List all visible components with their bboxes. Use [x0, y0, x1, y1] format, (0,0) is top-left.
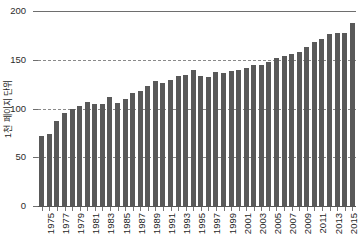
bar-2008: [289, 54, 294, 206]
bar-2002: [244, 68, 249, 206]
bar-2010: [304, 47, 309, 206]
y-tick-label-150: 150: [0, 55, 34, 65]
bar-1982: [92, 104, 97, 206]
x-tick-label-2013: 2013: [334, 213, 344, 234]
bar-1992: [168, 80, 173, 206]
x-tick-mark-2012: [322, 207, 323, 211]
bar-2003: [251, 65, 256, 206]
x-tick-mark-1991: [163, 207, 164, 211]
x-tick-mark-2013: [330, 207, 331, 211]
x-tick-mark-1988: [140, 207, 141, 211]
x-tick-label-2005: 2005: [273, 213, 283, 234]
bar-1978: [62, 113, 67, 206]
bar-1997: [206, 77, 211, 206]
bar-1994: [183, 75, 188, 206]
bar-1999: [221, 73, 226, 206]
x-tick-label-1981: 1981: [91, 213, 101, 234]
bar-1990: [153, 81, 158, 206]
y-tick-label-200: 200: [0, 6, 34, 16]
x-tick-mark-1997: [208, 207, 209, 211]
bar-2014: [335, 33, 340, 206]
bar-2005: [266, 62, 271, 206]
x-tick-label-1999: 1999: [228, 213, 238, 234]
x-tick-mark-2016: [352, 207, 353, 211]
bar-1983: [100, 104, 105, 206]
bar-1985: [115, 103, 120, 206]
x-tick-mark-2009: [299, 207, 300, 211]
x-tick-mark-2011: [314, 207, 315, 211]
bar-1977: [54, 121, 59, 206]
x-tick-mark-1990: [155, 207, 156, 211]
bar-1991: [160, 83, 165, 206]
x-tick-mark-1996: [201, 207, 202, 211]
bar-2011: [312, 42, 317, 206]
x-tick-label-1975: 1975: [46, 213, 56, 234]
x-tick-mark-1978: [65, 207, 66, 211]
bar-2006: [274, 58, 279, 206]
x-tick-mark-1975: [42, 207, 43, 211]
y-tick-label-100: 100: [0, 104, 34, 114]
bar-1981: [85, 102, 90, 206]
x-tick-mark-1976: [49, 207, 50, 211]
x-tick-mark-2004: [261, 207, 262, 211]
x-tick-mark-2000: [231, 207, 232, 211]
x-tick-mark-2002: [246, 207, 247, 211]
x-tick-mark-1985: [118, 207, 119, 211]
y-tick-label-0: 0: [0, 201, 34, 211]
x-tick-mark-1992: [171, 207, 172, 211]
bar-2001: [236, 70, 241, 207]
x-tick-mark-2015: [345, 207, 346, 211]
x-tick-label-1995: 1995: [197, 213, 207, 234]
x-tick-label-2007: 2007: [288, 213, 298, 234]
x-tick-mark-1989: [148, 207, 149, 211]
bar-2007: [282, 56, 287, 206]
x-tick-mark-2006: [276, 207, 277, 211]
x-tick-mark-2003: [254, 207, 255, 211]
x-tick-mark-1982: [95, 207, 96, 211]
bar-1989: [145, 86, 150, 206]
bar-2004: [259, 65, 264, 206]
x-tick-mark-1986: [125, 207, 126, 211]
bar-1975: [39, 136, 44, 206]
bar-2015: [342, 33, 347, 206]
x-tick-mark-2014: [337, 207, 338, 211]
x-axis-line: [38, 206, 356, 207]
x-tick-label-1987: 1987: [137, 213, 147, 234]
bar-1984: [107, 97, 112, 206]
x-tick-label-1983: 1983: [106, 213, 116, 234]
bar-1979: [70, 109, 75, 207]
x-tick-label-1979: 1979: [76, 213, 86, 234]
plot-area: [38, 11, 356, 206]
x-tick-label-2009: 2009: [303, 213, 313, 234]
x-tick-label-1977: 1977: [61, 213, 71, 234]
x-tick-mark-2010: [307, 207, 308, 211]
bar-2012: [319, 39, 324, 206]
y-tick-label-50: 50: [0, 152, 34, 162]
x-tick-mark-1977: [57, 207, 58, 211]
x-tick-mark-2001: [239, 207, 240, 211]
x-tick-mark-1984: [110, 207, 111, 211]
x-tick-label-1985: 1985: [122, 213, 132, 234]
bar-1980: [77, 106, 82, 206]
x-tick-label-2003: 2003: [258, 213, 268, 234]
bar-2013: [327, 34, 332, 206]
bar-1996: [198, 76, 203, 206]
bar-1993: [176, 76, 181, 206]
bar-chart: 1천 페이지 단위 050100150200 19751977197919811…: [0, 0, 363, 247]
x-tick-label-2011: 2011: [318, 213, 328, 233]
bar-1986: [123, 99, 128, 206]
x-tick-mark-1994: [186, 207, 187, 211]
gridline-200: [38, 11, 356, 12]
x-tick-label-2001: 2001: [243, 213, 253, 234]
x-tick-label-1989: 1989: [152, 213, 162, 234]
bar-2009: [297, 52, 302, 206]
bar-2000: [229, 71, 234, 206]
x-tick-label-1993: 1993: [182, 213, 192, 234]
x-tick-label-1991: 1991: [167, 213, 177, 234]
x-tick-label-1997: 1997: [212, 213, 222, 234]
x-tick-mark-1998: [216, 207, 217, 211]
x-tick-mark-1987: [133, 207, 134, 211]
bar-2016: [350, 23, 355, 206]
x-tick-mark-1980: [80, 207, 81, 211]
x-tick-mark-2005: [269, 207, 270, 211]
